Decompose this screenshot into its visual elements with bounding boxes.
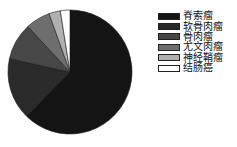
legend-swatch <box>158 54 180 61</box>
legend-swatch <box>158 65 180 72</box>
legend-item-ewing-sarcoma: 尤文肉瘤 <box>158 42 223 52</box>
pie-chart <box>0 0 140 147</box>
legend-swatch <box>158 13 180 20</box>
legend-swatch <box>158 23 180 30</box>
legend-label: 尤文肉瘤 <box>183 42 223 52</box>
legend-swatch <box>158 44 180 51</box>
legend-item-chordoma: 脊索瘤 <box>158 11 223 21</box>
legend: 脊索瘤 软骨肉瘤 骨肉瘤 尤文肉瘤 神经鞘瘤 结肠癌 <box>158 11 223 73</box>
legend-label: 脊索瘤 <box>183 11 213 21</box>
legend-label: 结肠癌 <box>183 63 213 73</box>
legend-item-colon-cancer: 结肠癌 <box>158 63 223 73</box>
legend-swatch <box>158 33 180 40</box>
